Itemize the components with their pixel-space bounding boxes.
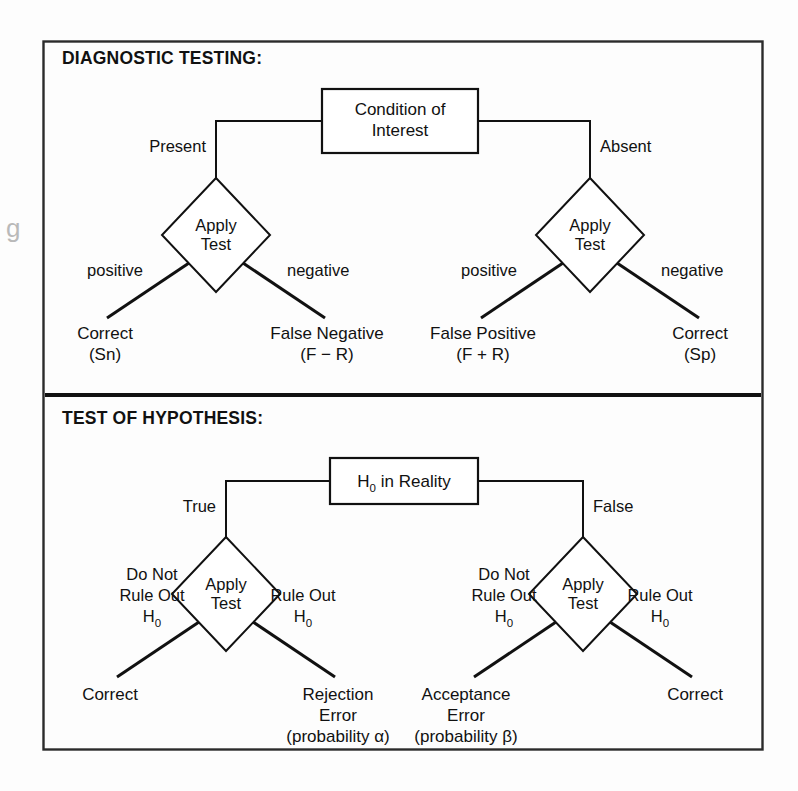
decision-tree-figure: DIAGNOSTIC TESTING: Condition of Interes…: [0, 0, 798, 791]
connector-root-to-right-test: [478, 121, 590, 178]
edge-label-right-do-not-rule-out-line3: H0: [495, 607, 513, 629]
left-hypothesis-label-line1: Apply: [205, 575, 247, 593]
leaf-false-negative-line2: (F − R): [300, 345, 353, 364]
leaf-correct-sn-line1: Correct: [77, 324, 133, 343]
leaf-correct-sn-line2: (Sn): [89, 345, 121, 364]
leaf-correct-sp-line1: Correct: [672, 324, 728, 343]
branch-right-do-not-rule-out: [474, 622, 556, 677]
branch-right-rule-out: [610, 622, 692, 677]
edge-label-right-do-not-rule-out-line1: Do Not: [478, 565, 530, 583]
edge-label-left-rule-out-line1: Rule Out: [270, 586, 336, 604]
right-hypothesis-label-line2: Test: [568, 594, 599, 612]
leaf-false-positive-line2: (F + R): [456, 345, 509, 364]
right-apply-test-label-line1: Apply: [569, 216, 611, 234]
edge-label-left-do-not-rule-out-line2: Rule Out: [119, 586, 185, 604]
right-apply-test-label-line2: Test: [575, 235, 606, 253]
right-ro-h: H: [651, 607, 663, 625]
leaf-rejection-error-line2: Error: [319, 706, 357, 725]
left-hypothesis-label-line2: Test: [211, 594, 242, 612]
left-dnro-h: H: [143, 607, 155, 625]
edge-label-right-rule-out-line2: H0: [651, 607, 669, 629]
leaf-false-positive-line1: False Positive: [430, 324, 536, 343]
edge-label-left-negative: negative: [287, 261, 349, 279]
left-ro-h: H: [294, 607, 306, 625]
left-apply-test-label-line1: Apply: [195, 216, 237, 234]
root-node-label-line1: Condition of: [355, 100, 446, 119]
h0-suffix: in Reality: [376, 472, 451, 491]
leaf-acceptance-error-line1: Acceptance: [422, 685, 511, 704]
edge-label-left-do-not-rule-out-line1: Do Not: [126, 565, 178, 583]
section-heading-diagnostic: DIAGNOSTIC TESTING:: [62, 48, 262, 68]
left-ro-sub: 0: [306, 617, 312, 629]
branch-left-do-not-rule-out: [117, 622, 199, 677]
edge-label-true: True: [183, 497, 216, 515]
connector-root-to-left-test: [216, 121, 322, 178]
section-heading-hypothesis: TEST OF HYPOTHESIS:: [62, 408, 263, 428]
edge-label-right-positive: positive: [461, 261, 517, 279]
h0-prefix: H: [357, 472, 369, 491]
right-dnro-sub: 0: [507, 617, 513, 629]
leaf-rejection-error-line3: (probability α): [286, 727, 389, 746]
edge-label-left-do-not-rule-out-line3: H0: [143, 607, 161, 629]
left-dnro-sub: 0: [155, 617, 161, 629]
edge-label-right-negative: negative: [661, 261, 723, 279]
figure-page: g DIAGNOSTIC TESTING: Condition of Inter…: [0, 0, 798, 791]
connector-h0-to-right-test: [478, 481, 583, 537]
leaf-hyp-right-correct: Correct: [667, 685, 723, 704]
edge-label-right-do-not-rule-out-line2: Rule Out: [471, 586, 537, 604]
leaf-acceptance-error-line2: Error: [447, 706, 485, 725]
right-ro-sub: 0: [663, 617, 669, 629]
right-hypothesis-label-line1: Apply: [562, 575, 604, 593]
edge-label-left-positive: positive: [87, 261, 143, 279]
leaf-acceptance-error-line3: (probability β): [414, 727, 517, 746]
branch-left-rule-out: [253, 622, 335, 677]
edge-label-absent: Absent: [600, 137, 652, 155]
edge-label-right-rule-out-line1: Rule Out: [627, 586, 693, 604]
root-node-label-line2: Interest: [372, 121, 429, 140]
leaf-rejection-error-line1: Rejection: [303, 685, 374, 704]
leaf-hyp-left-correct: Correct: [82, 685, 138, 704]
right-dnro-h: H: [495, 607, 507, 625]
leaf-false-negative-line1: False Negative: [270, 324, 383, 343]
edge-label-present: Present: [149, 137, 206, 155]
leaf-correct-sp-line2: (Sp): [684, 345, 716, 364]
edge-label-left-rule-out-line2: H0: [294, 607, 312, 629]
edge-label-false: False: [593, 497, 633, 515]
connector-h0-to-left-test: [226, 481, 330, 537]
left-apply-test-label-line2: Test: [201, 235, 232, 253]
